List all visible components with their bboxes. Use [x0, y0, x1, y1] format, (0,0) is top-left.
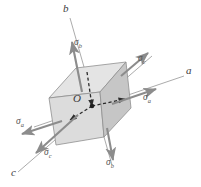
axis-label-b: b — [63, 3, 69, 14]
stress-element-figure: b a c O σb σb σc σc σa σa — [0, 0, 201, 187]
stress-label-sigma-c-up-right: σc — [138, 54, 146, 65]
stress-label-sigma-c-down-left: σc — [44, 148, 52, 159]
axis-label-a: a — [186, 65, 192, 76]
arrow-sigma-b-down — [107, 128, 113, 160]
sigma-subscript: b — [111, 162, 114, 169]
stress-cube — [49, 62, 131, 145]
stress-label-sigma-b-down: σb — [106, 158, 114, 169]
origin-label: O — [73, 93, 81, 104]
sigma-subscript: b — [79, 42, 82, 49]
sigma-subscript: c — [49, 152, 52, 159]
sigma-subscript: a — [148, 97, 151, 104]
sigma-subscript: c — [143, 58, 146, 65]
stress-label-sigma-a-left: σa — [16, 117, 24, 128]
origin-point — [90, 104, 95, 109]
sigma-subscript: a — [21, 121, 24, 128]
stress-label-sigma-b-up: σb — [74, 38, 82, 49]
axis-label-c: c — [11, 167, 16, 178]
stress-label-sigma-a-right: σa — [143, 93, 151, 104]
figure-canvas — [0, 0, 201, 187]
